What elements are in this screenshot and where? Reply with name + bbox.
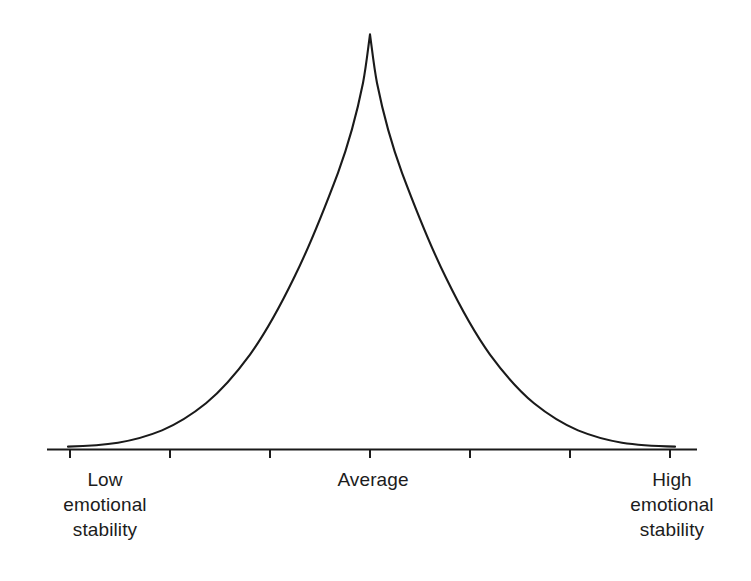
bell-curve-figure: Low emotional stability Average High emo… xyxy=(0,0,751,581)
axis-label-low-line1: Low xyxy=(20,467,190,492)
axis-label-high-line1: High xyxy=(587,467,751,492)
axis-label-average: Average xyxy=(288,467,458,492)
bell-curve-path xyxy=(68,34,675,446)
axis-label-high-line2: emotional xyxy=(587,492,751,517)
axis-label-low-emotional-stability: Low emotional stability xyxy=(20,467,190,542)
axis-label-high-emotional-stability: High emotional stability xyxy=(587,467,751,542)
axis-label-high-line3: stability xyxy=(587,517,751,542)
axis-label-low-line3: stability xyxy=(20,517,190,542)
axis-label-average-line1: Average xyxy=(288,467,458,492)
axis-label-low-line2: emotional xyxy=(20,492,190,517)
